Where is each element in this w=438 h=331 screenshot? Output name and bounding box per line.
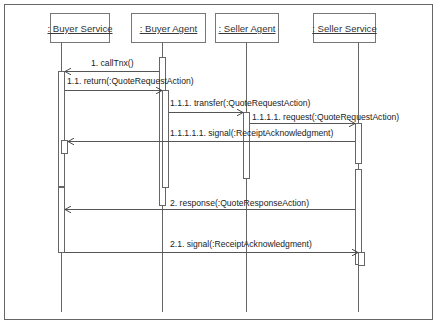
message-label: 1.1.1.1.1. signal(:ReceiptAcknowledgment… [170,128,334,138]
activation-bar [356,124,362,164]
activation-bar [62,141,68,154]
activation-bar [359,253,365,266]
activation-bar [59,188,65,253]
sequence-diagram: : Buyer Service : Buyer Agent : Seller A… [0,0,438,331]
message-label: 1.1.1. transfer(:QuoteRequestAction) [170,98,311,108]
message-label: 1.1. return(:QuoteRequestAction) [67,76,194,86]
message-1-1-1-1[interactable]: 1.1.1.1. request(:QuoteRequestAction) [250,112,399,124]
activation-bar [163,91,169,188]
message-label: 2. response(:QuoteResponseAction) [170,198,309,208]
lifeline-label: : Buyer Service [47,23,112,34]
diagram-frame [5,5,433,320]
message-label: 1.1.1.1. request(:QuoteRequestAction) [252,112,399,122]
lifeline-label: : Seller Service [312,23,377,34]
activation-bar [356,170,362,265]
lifeline-label: : Buyer Agent [140,23,198,34]
activation-bar [244,113,250,179]
message-label: 1. callTnx() [91,58,134,68]
activation-bar [59,72,65,187]
lifeline-label: : Seller Agent [218,23,275,34]
message-label: 2.1. signal(:ReceiptAcknowledgment) [170,239,312,249]
